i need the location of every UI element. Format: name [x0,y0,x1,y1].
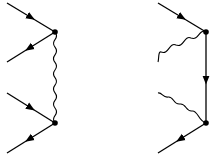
vertex-dot [203,29,209,35]
fermion-line-bottom-out [7,123,55,153]
fermion-line-in [158,3,206,32]
fermion-line-top-out [7,32,55,62]
photon-line-top-wavy [158,31,206,62]
left-diagram [7,3,58,153]
vertex-dot [203,120,209,126]
photon-propagator-wavy [54,32,57,123]
vertex-dot [52,29,58,35]
right-diagram [158,3,209,153]
fermion-line-bottom-in [7,93,55,123]
fermion-line-out [158,123,206,153]
fermion-line-top-in [7,3,55,32]
photon-line-bottom-wavy [158,93,206,123]
vertex-dot [52,120,58,126]
feynman-diagram-canvas [0,0,217,161]
feynman-diagrams-svg [0,0,217,161]
